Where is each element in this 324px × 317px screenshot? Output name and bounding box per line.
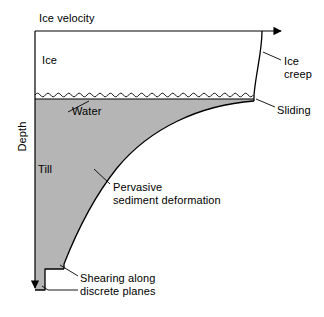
annotation-sliding: Sliding <box>277 104 311 117</box>
leader-ice-creep <box>263 52 281 60</box>
annotation-ice-creep: Ice creep <box>284 55 322 81</box>
x-axis-label-ice-velocity: Ice velocity <box>39 12 95 25</box>
annotation-ice-creep-line-1: Ice <box>284 55 322 68</box>
annotation-pervasive-line-1: Pervasive <box>113 181 238 194</box>
y-axis-label-depth: Depth <box>16 107 29 167</box>
annotation-pervasive-sediment-deformation: Pervasive sediment deformation <box>113 181 238 207</box>
annotation-shearing-line-1: Shearing along <box>80 272 210 285</box>
annotation-ice-creep-line-2: creep <box>284 68 322 81</box>
annotation-shearing-along-discrete-planes: Shearing along discrete planes <box>80 272 210 298</box>
layer-label-ice: Ice <box>42 54 57 67</box>
annotation-shearing-line-2: discrete planes <box>80 285 210 298</box>
annotation-pervasive-line-2: sediment deformation <box>113 194 238 207</box>
layer-label-till: Till <box>38 163 52 176</box>
water-film <box>35 93 254 99</box>
leader-sliding <box>256 99 275 107</box>
ice-velocity-depth-diagram <box>0 0 324 317</box>
ice-creep-profile-curve <box>254 31 262 95</box>
leader-shearing-upper <box>60 265 78 276</box>
water-film-wavy-line <box>35 93 253 97</box>
leader-shearing-lower <box>42 286 78 290</box>
layer-label-water: Water <box>72 105 101 118</box>
